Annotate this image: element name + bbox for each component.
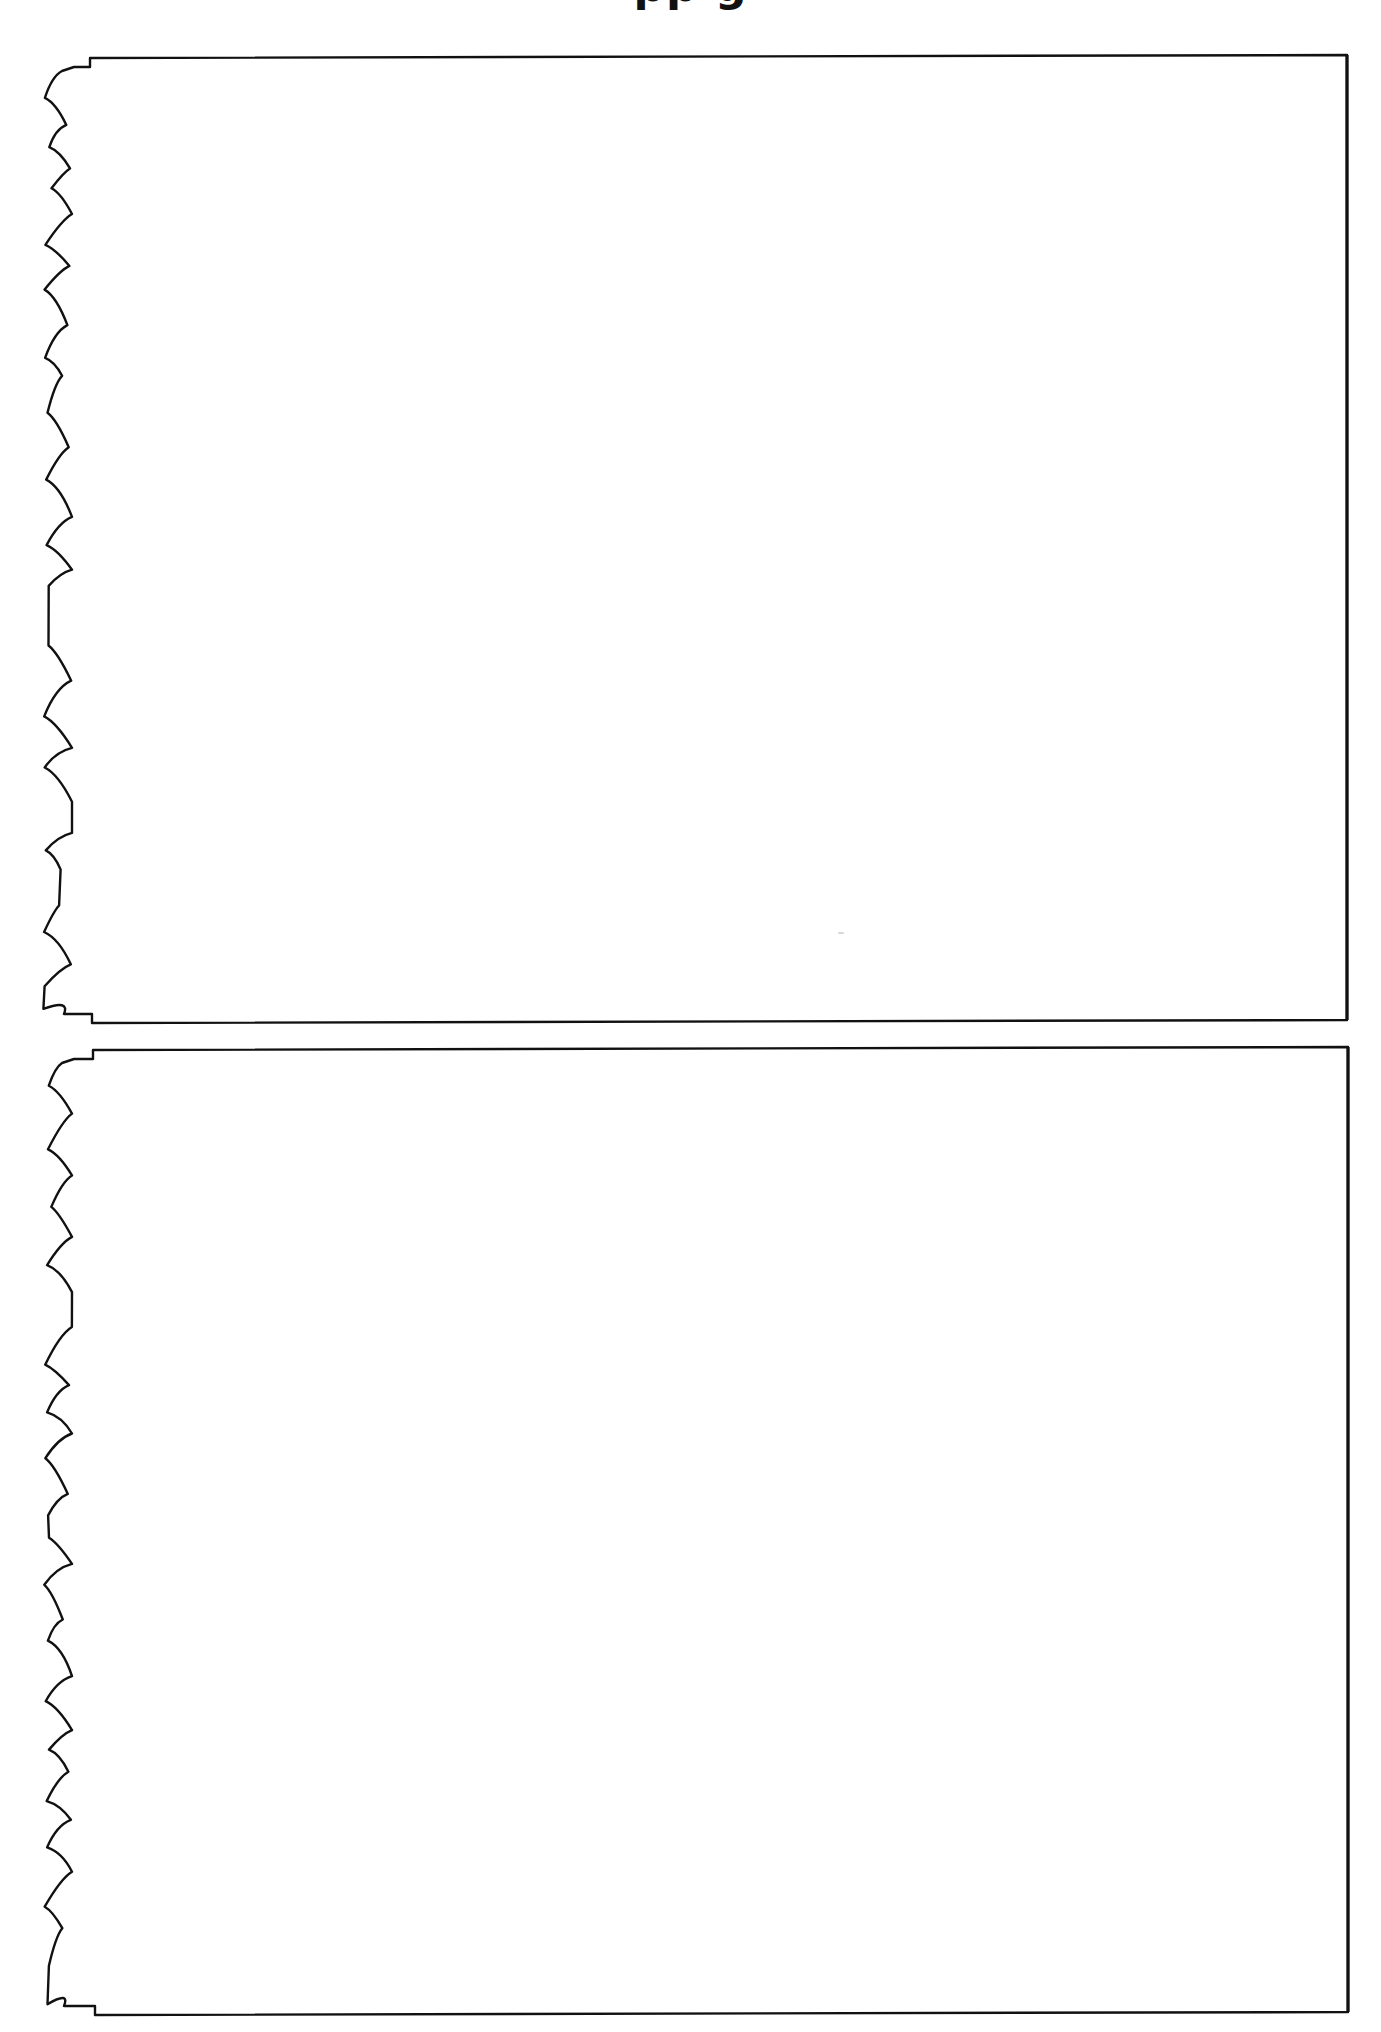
torn-sheet-outline [44, 1047, 1348, 2015]
sheet-1 [43, 55, 1347, 1023]
torn-sheet-outline [43, 55, 1347, 1023]
sheet-2 [44, 1047, 1348, 2015]
torn-paper-sheet-top [0, 0, 1381, 2032]
torn-edge-outline [0, 0, 1381, 2032]
scan-speck [838, 932, 844, 934]
